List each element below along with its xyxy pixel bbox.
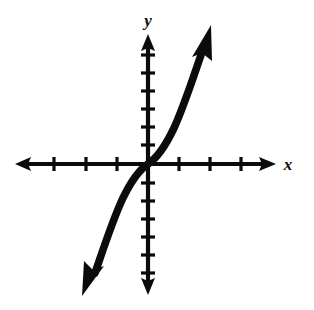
y-axis-label: y xyxy=(142,11,152,30)
plot-canvas: x y xyxy=(0,0,314,310)
cubic-function-graph: x y xyxy=(0,0,314,310)
x-axis-label: x xyxy=(283,155,293,174)
